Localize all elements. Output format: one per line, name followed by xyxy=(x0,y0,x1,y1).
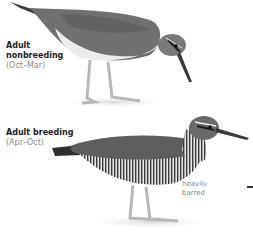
bird-illustrations xyxy=(0,0,253,233)
nonbreeding-title-line1: Adult xyxy=(6,41,63,51)
breeding-period: (Apr–Oct) xyxy=(6,138,73,148)
nonbreeding-label: Adult nonbreeding (Oct–Mar) xyxy=(6,41,63,71)
stray-mark xyxy=(247,186,253,188)
annotation-line1: heavily xyxy=(182,180,207,189)
nonbreeding-period: (Oct–Mar) xyxy=(6,61,63,71)
barring-annotation: heavily barred xyxy=(182,180,207,198)
breeding-bird xyxy=(52,116,249,229)
breeding-title: Adult breeding xyxy=(6,128,73,138)
breeding-label: Adult breeding (Apr–Oct) xyxy=(6,128,73,148)
nonbreeding-title-line2: nonbreeding xyxy=(6,51,63,61)
annotation-line2: barred xyxy=(182,189,207,198)
